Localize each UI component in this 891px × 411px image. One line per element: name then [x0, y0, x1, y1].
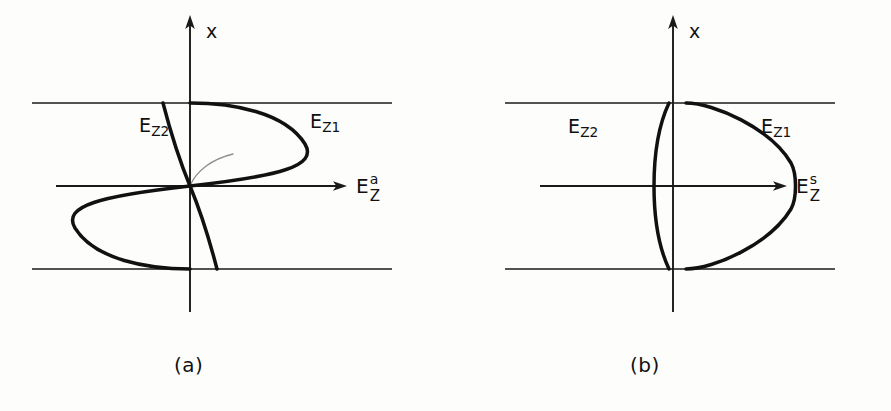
panel-a-curve-label-ez2-base: E: [139, 114, 151, 136]
panel-a-curve-label-ez2: EZ2: [139, 116, 169, 139]
panel-a-ez-axis-label-subscript: Z: [370, 189, 380, 204]
panel-b-curve-label-ez2-base: E: [568, 115, 580, 137]
panel-b-curve-label-ez1-base: E: [761, 115, 773, 137]
panel-b-ez-axis-label: EsZ: [796, 176, 809, 196]
panel-b-ez-axis-label-base: E: [796, 174, 809, 198]
figure-root: x EZ2 EZ1 EaZ (a) x EZ2 EZ1 EsZ (b): [0, 0, 891, 411]
panel-b-ez-axis-label-superscript: s: [810, 172, 817, 186]
figure-vector-canvas: [0, 0, 891, 411]
panel-a-caption: (a): [174, 355, 203, 375]
panel-b-graphics: [505, 15, 835, 312]
panel-a-graphics: [32, 15, 392, 312]
panel-b-curve-label-ez1: EZ1: [761, 117, 791, 140]
panel-b-caption: (b): [630, 355, 660, 375]
panel-a-curve-label-ez1: EZ1: [310, 112, 340, 135]
panel-b-x-axis-label: x: [689, 22, 700, 41]
panel-a-ez-axis-label: EaZ: [356, 176, 369, 196]
panel-a-curve-label-ez1-base: E: [310, 110, 322, 132]
panel-b-curve-label-ez1-sub: Z1: [773, 124, 791, 140]
panel-a-ez-axis-label-superscript: a: [370, 172, 379, 186]
panel-a-ez-axis-label-base: E: [356, 174, 369, 198]
panel-b-curve-label-ez2: EZ2: [568, 117, 598, 140]
panel-b-ez-axis-label-subscript: Z: [810, 189, 820, 204]
panel-a-x-axis-label: x: [206, 22, 217, 41]
panel-a-curve-label-ez1-sub: Z1: [322, 119, 340, 135]
panel-b-curve-label-ez2-sub: Z2: [580, 124, 598, 140]
panel-a-curve-label-ez2-sub: Z2: [151, 123, 169, 139]
